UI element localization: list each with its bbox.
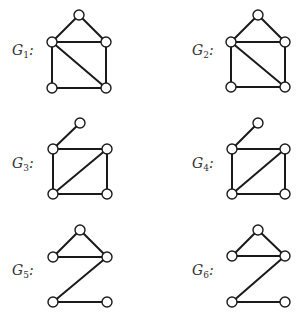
graph-edge [231, 42, 285, 87]
label-colon: : [209, 155, 214, 171]
graph-edge [232, 256, 285, 302]
label-base: G [12, 262, 23, 278]
graph-edge [53, 230, 80, 257]
graph-vertex [227, 297, 237, 307]
graph-edge [231, 15, 258, 42]
graph-g5-edges [53, 230, 107, 302]
graph-vertex [47, 37, 57, 47]
graph-vertex [101, 83, 111, 93]
graph-g2-edges [231, 15, 285, 87]
graph-vertex [48, 189, 58, 199]
graph-label-g2: G2: [192, 43, 214, 60]
graph-g4-edges [232, 123, 285, 194]
label-colon: : [209, 42, 214, 58]
graph-vertex [47, 83, 57, 93]
graph-g3-nodes [48, 118, 112, 199]
graph-edge [53, 149, 107, 194]
edges-layer [52, 15, 285, 302]
graph-vertex [227, 189, 237, 199]
graph-vertex [280, 251, 290, 261]
graph-vertex [253, 10, 263, 20]
graph-vertex [227, 144, 237, 154]
graph-g6-nodes [227, 225, 290, 307]
graph-vertex [75, 225, 85, 235]
graph-vertex [226, 37, 236, 47]
graph-g2-nodes [226, 10, 290, 92]
graph-g5-nodes [48, 225, 112, 307]
graph-vertex [280, 82, 290, 92]
graph-label-g1: G1: [12, 43, 34, 60]
graph-vertex [280, 189, 290, 199]
nodes-layer [47, 10, 290, 307]
graph-edge [80, 230, 107, 257]
label-base: G [12, 155, 23, 171]
label-colon: : [29, 155, 34, 171]
graph-vertex [226, 82, 236, 92]
graph-figure [0, 0, 303, 317]
label-base: G [12, 42, 23, 58]
graph-edge [79, 15, 106, 42]
graph-vertex [280, 144, 290, 154]
label-base: G [192, 155, 203, 171]
graph-vertex [74, 10, 84, 20]
label-colon: : [209, 262, 214, 278]
label-colon: : [29, 262, 34, 278]
graph-edge [258, 15, 285, 42]
graph-vertex [280, 297, 290, 307]
graph-vertex [48, 297, 58, 307]
graph-vertex [102, 297, 112, 307]
graph-g6-edges [232, 230, 285, 302]
graph-vertex [101, 37, 111, 47]
graph-vertex [75, 118, 85, 128]
graph-label-g4: G4: [192, 156, 214, 173]
graph-g1-nodes [47, 10, 111, 93]
graph-vertex [48, 144, 58, 154]
graph-label-g5: G5: [12, 263, 34, 280]
graph-vertex [102, 252, 112, 262]
graph-vertex [253, 118, 263, 128]
graph-vertex [227, 251, 237, 261]
graph-edge [232, 149, 285, 194]
label-colon: : [29, 42, 34, 58]
graph-vertex [280, 37, 290, 47]
graph-edge [52, 42, 106, 88]
label-base: G [192, 262, 203, 278]
graph-g4-nodes [227, 118, 290, 199]
graph-vertex [102, 189, 112, 199]
graph-g3-edges [53, 123, 107, 194]
graph-vertex [48, 252, 58, 262]
graph-edge [53, 257, 107, 302]
graph-vertex [253, 225, 263, 235]
graph-edge [52, 15, 79, 42]
label-base: G [192, 42, 203, 58]
graph-vertex [102, 144, 112, 154]
graph-g1-edges [52, 15, 106, 88]
graph-label-g3: G3: [12, 156, 34, 173]
graph-label-g6: G6: [192, 263, 214, 280]
